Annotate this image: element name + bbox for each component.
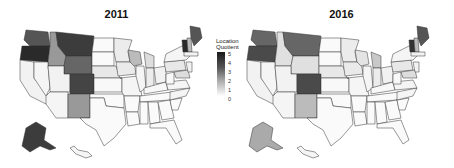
state-KS xyxy=(94,78,122,92)
state-OR xyxy=(20,46,50,62)
state-ND xyxy=(319,38,341,52)
state-AK xyxy=(22,122,56,152)
state-MA xyxy=(411,52,425,56)
state-SD xyxy=(92,52,114,66)
state-AZ xyxy=(46,92,68,118)
state-WA xyxy=(251,30,277,46)
state-NE xyxy=(319,66,347,78)
state-WA xyxy=(24,30,50,46)
state-NM xyxy=(295,94,317,118)
state-AZ xyxy=(273,92,295,118)
map-panel-2011: 2011 xyxy=(0,0,227,168)
state-MI xyxy=(371,52,381,68)
state-HI xyxy=(297,146,319,158)
state-AL xyxy=(148,102,160,124)
state-FL xyxy=(150,120,182,144)
us-choropleth-map xyxy=(0,0,227,168)
state-OR xyxy=(247,46,277,62)
state-LA xyxy=(353,112,367,126)
state-MS xyxy=(140,102,148,124)
state-SD xyxy=(319,52,341,66)
state-IN xyxy=(373,68,381,88)
state-ND xyxy=(92,38,114,52)
state-NE xyxy=(92,66,120,78)
state-ME xyxy=(190,26,202,46)
us-choropleth-map xyxy=(227,0,454,168)
state-CO xyxy=(70,74,94,94)
map-panel-2016: 2016 xyxy=(227,0,454,168)
state-WY xyxy=(64,56,92,74)
legend-gradient-bar xyxy=(217,52,225,96)
state-NM xyxy=(68,94,90,118)
state-WY xyxy=(291,56,319,74)
state-MA xyxy=(184,52,198,56)
state-NH xyxy=(187,38,192,52)
state-OH xyxy=(381,66,393,84)
state-LA xyxy=(126,112,140,126)
state-MS xyxy=(367,102,375,124)
state-OH xyxy=(154,66,166,84)
state-ME xyxy=(417,26,429,46)
state-AR xyxy=(124,96,140,112)
state-KS xyxy=(321,78,349,92)
state-AR xyxy=(351,96,367,112)
state-WV xyxy=(166,72,174,84)
state-MI xyxy=(144,52,154,68)
state-WV xyxy=(393,72,401,84)
state-AL xyxy=(375,102,387,124)
state-CO xyxy=(297,74,321,94)
state-FL xyxy=(377,120,409,144)
state-HI xyxy=(70,146,92,158)
state-IN xyxy=(146,68,154,88)
state-AK xyxy=(249,122,283,152)
state-NH xyxy=(414,38,419,52)
